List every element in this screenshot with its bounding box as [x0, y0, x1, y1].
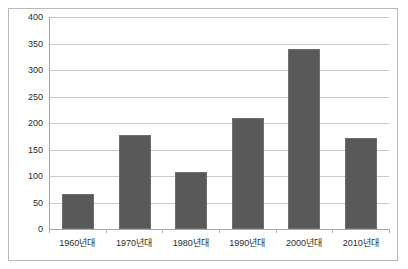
bar-series	[50, 17, 389, 229]
x-axis-tick-mark	[332, 229, 333, 233]
x-axis-tick-mark	[389, 229, 390, 233]
x-axis-tick-mark	[106, 229, 107, 233]
y-axis-tick-label: 400	[13, 12, 43, 22]
x-axis-tick-marks	[49, 229, 389, 234]
y-axis-tick-label: 0	[13, 224, 43, 234]
bar[interactable]	[345, 138, 377, 229]
x-axis-tick-label: 2000년대	[276, 237, 333, 257]
y-axis-tick-label: 350	[13, 39, 43, 49]
x-axis-tick-labels: 1960년대 1970년대 1980년대 1990년대 2000년대 2010년…	[49, 237, 389, 257]
x-axis-tick-mark	[219, 229, 220, 233]
y-axis-tick-labels: 400 350 300 250 200 150 100 50 0	[9, 9, 43, 260]
y-axis-tick-label: 300	[13, 65, 43, 75]
chart-frame: 400 350 300 250 200 150 100 50 0 1960년대 …	[8, 8, 398, 261]
bar[interactable]	[119, 135, 151, 229]
x-axis-tick-mark	[276, 229, 277, 233]
bar-slot	[107, 17, 164, 229]
bar-slot	[333, 17, 390, 229]
bar-slot	[276, 17, 333, 229]
x-axis-tick-label: 1980년대	[162, 237, 219, 257]
y-axis-tick-label: 100	[13, 171, 43, 181]
bar[interactable]	[288, 49, 320, 229]
x-axis-tick-label: 1970년대	[106, 237, 163, 257]
y-axis-tick-label: 250	[13, 92, 43, 102]
bar-slot	[220, 17, 277, 229]
bar-slot	[163, 17, 220, 229]
chart-plot-wrapper: 400 350 300 250 200 150 100 50 0 1960년대 …	[9, 9, 397, 260]
y-axis-tick-label: 150	[13, 145, 43, 155]
bar[interactable]	[232, 118, 264, 229]
x-axis-tick-label: 1990년대	[219, 237, 276, 257]
bar-slot	[50, 17, 107, 229]
x-axis-tick-label: 1960년대	[49, 237, 106, 257]
bar[interactable]	[175, 172, 207, 229]
y-axis-tick-label: 200	[13, 118, 43, 128]
y-axis-tick-label: 50	[13, 198, 43, 208]
bar[interactable]	[62, 194, 94, 230]
x-axis-tick-label: 2010년대	[332, 237, 389, 257]
x-axis-tick-mark	[162, 229, 163, 233]
plot-area	[49, 17, 389, 229]
x-axis-tick-mark	[49, 229, 50, 233]
